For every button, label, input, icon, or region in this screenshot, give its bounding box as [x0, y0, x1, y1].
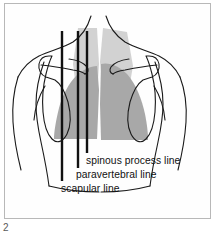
- label-spinous-process-line: spinous process line: [86, 155, 180, 166]
- axilla-outline-left: [36, 62, 49, 186]
- figure-container: spinous process line paravertebral line …: [0, 0, 217, 237]
- label-scapular-line: scapular line: [61, 183, 119, 194]
- lung-field-right: [100, 63, 148, 140]
- axilla-outline-right: [150, 62, 163, 186]
- label-paravertebral-line: paravertebral line: [76, 169, 156, 180]
- figure-number: 2: [3, 222, 9, 233]
- arm-outline-left: [13, 77, 21, 170]
- figure-frame: spinous process line paravertebral line …: [4, 3, 211, 219]
